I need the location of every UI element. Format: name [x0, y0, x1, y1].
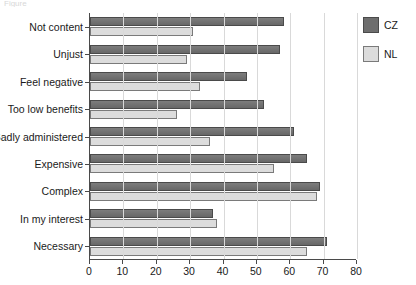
gridline	[190, 13, 191, 259]
y-axis-label: Feel negative	[20, 76, 83, 87]
x-axis-tick	[356, 260, 357, 264]
bar-cz	[90, 17, 284, 26]
gridline	[224, 13, 225, 259]
bar-nl	[90, 55, 187, 64]
bar-cz	[90, 237, 327, 246]
y-axis-label: Not content	[29, 21, 83, 32]
bar-nl	[90, 110, 177, 119]
x-axis-tick	[256, 260, 257, 264]
legend-swatch-cz	[363, 17, 379, 33]
y-axis-label: Expensive	[35, 158, 83, 169]
bar-cz	[90, 182, 320, 191]
bar-cz	[90, 100, 264, 109]
x-axis-tick	[122, 260, 123, 264]
x-axis-tick-label: 60	[283, 265, 295, 277]
x-axis-tick-label: 70	[317, 265, 329, 277]
x-axis-tick-label: 20	[150, 265, 162, 277]
gridline	[290, 13, 291, 259]
gridline	[157, 13, 158, 259]
x-axis-tick	[89, 260, 90, 264]
legend-swatch-nl	[363, 46, 379, 62]
x-axis-tick	[156, 260, 157, 264]
y-axis-label: Too low benefits	[8, 104, 83, 115]
x-axis-tick	[289, 260, 290, 264]
legend-item-nl[interactable]: NL	[363, 46, 413, 62]
gridline	[123, 13, 124, 259]
y-axis-label: In my interest	[20, 213, 83, 224]
gridline	[357, 13, 358, 259]
y-axis-label: Necessary	[33, 241, 83, 252]
bar-nl	[90, 82, 200, 91]
x-axis-tick	[323, 260, 324, 264]
y-axis-label: Unjust	[53, 49, 83, 60]
legend-item-cz[interactable]: CZ	[363, 17, 413, 33]
bar-cz	[90, 127, 294, 136]
bar-chart: Figure Not contentUnjustFeel negativeToo…	[0, 0, 416, 285]
plot-area	[89, 13, 356, 260]
y-axis-category-labels: Not contentUnjustFeel negativeToo low be…	[0, 13, 86, 260]
x-axis-tick	[189, 260, 190, 264]
bar-cz	[90, 209, 213, 218]
x-axis: 01020304050607080	[89, 260, 356, 266]
bar-nl	[90, 137, 210, 146]
x-axis-tick	[223, 260, 224, 264]
legend-label: CZ	[384, 20, 398, 31]
legend-label: NL	[384, 49, 397, 60]
x-axis-tick-label: 30	[183, 265, 195, 277]
bar-nl	[90, 219, 217, 228]
y-axis-label: Badly administered	[0, 131, 83, 142]
legend: CZNL	[363, 17, 413, 75]
bar-cz	[90, 45, 280, 54]
bar-nl	[90, 27, 193, 36]
x-axis-tick-label: 10	[117, 265, 129, 277]
x-axis-tick-label: 0	[86, 265, 92, 277]
gridline	[257, 13, 258, 259]
y-axis-label: Complex	[42, 186, 83, 197]
clipped-caption: Figure	[4, 0, 144, 7]
x-axis-tick-label: 50	[250, 265, 262, 277]
gridline	[324, 13, 325, 259]
bar-nl	[90, 164, 274, 173]
x-axis-tick-label: 40	[217, 265, 229, 277]
x-axis-tick-label: 80	[350, 265, 362, 277]
